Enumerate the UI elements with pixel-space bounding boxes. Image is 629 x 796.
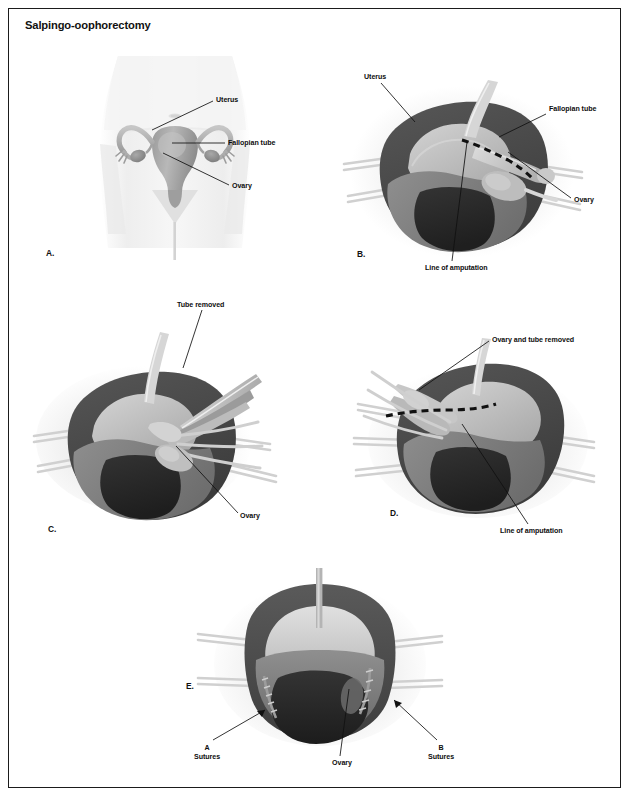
panel-e-figure <box>190 568 450 748</box>
panel-d <box>350 338 600 523</box>
panel-e-label-suture-b-line2: Sutures <box>419 753 463 762</box>
panel-c-label-ovary: Ovary <box>240 512 260 521</box>
panel-c-label-tube-removed: Tube removed <box>177 301 224 310</box>
panel-b-letter: B. <box>357 249 365 259</box>
panel-a-letter: A. <box>46 248 54 258</box>
panel-a-figure <box>60 52 290 252</box>
panel-e <box>190 568 450 748</box>
panel-d-letter: D. <box>390 508 398 518</box>
panel-b-label-fallopian-tube: Fallopian tube <box>549 105 596 114</box>
panel-c <box>32 330 292 520</box>
illustration-page: Salpingo-oophorectomy <box>0 0 629 796</box>
panel-a-label-ovary: Ovary <box>232 182 252 191</box>
panel-a-label-fallopian-tube: Fallopian tube <box>228 139 275 148</box>
panel-e-label-ovary: Ovary <box>322 759 362 768</box>
panel-d-label-ovary-and-tube-removed: Ovary and tube removed <box>492 336 574 345</box>
panel-e-label-suture-a-line1: A <box>185 744 229 753</box>
pelvic-cavity <box>430 447 511 511</box>
panel-a <box>60 52 290 252</box>
panel-b-label-ovary: Ovary <box>574 196 594 205</box>
panel-d-figure <box>350 338 600 523</box>
panel-d-label-line-of-amputation: Line of amputation <box>500 527 563 536</box>
panel-e-label-suture-a: A Sutures <box>185 744 229 763</box>
panel-b-label-uterus: Uterus <box>364 73 386 82</box>
pelvic-cavity <box>414 187 495 251</box>
panel-a-label-uterus: Uterus <box>216 96 238 105</box>
panel-b-label-line-of-amputation: Line of amputation <box>425 264 488 273</box>
page-title: Salpingo-oophorectomy <box>25 19 151 31</box>
panel-e-label-suture-a-line2: Sutures <box>185 753 229 762</box>
panel-c-figure <box>32 330 292 520</box>
panel-c-letter: C. <box>48 524 56 534</box>
panel-e-letter: E. <box>186 681 194 691</box>
panel-e-label-suture-b: B Sutures <box>419 744 463 763</box>
uterine-stalk <box>316 568 322 628</box>
panel-e-label-suture-b-line1: B <box>419 744 463 753</box>
